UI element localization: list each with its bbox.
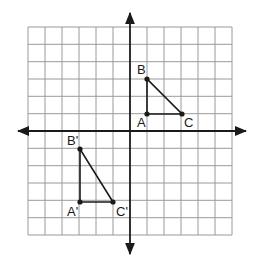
label-a: A bbox=[137, 115, 146, 130]
label-a-prime: A' bbox=[67, 204, 78, 219]
point-a-prime bbox=[77, 199, 82, 204]
point-b-prime bbox=[77, 146, 82, 151]
label-c-prime: C' bbox=[116, 204, 128, 219]
label-b: B bbox=[137, 62, 146, 77]
point-b bbox=[144, 76, 149, 81]
coordinate-plane: B A C B' A' C' bbox=[0, 0, 255, 259]
triangle-a-prime-b-prime-c-prime: B' A' C' bbox=[67, 133, 128, 219]
label-c: C bbox=[184, 115, 193, 130]
label-b-prime: B' bbox=[67, 133, 78, 148]
point-c-prime bbox=[110, 199, 115, 204]
